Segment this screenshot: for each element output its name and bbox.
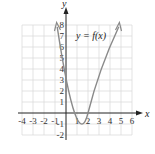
svg-text:7: 7 <box>60 31 65 41</box>
svg-text:5: 5 <box>119 116 124 126</box>
svg-text:-2: -2 <box>57 130 65 140</box>
svg-text:-3: -3 <box>29 116 37 126</box>
svg-text:3: 3 <box>97 116 102 126</box>
svg-text:-2: -2 <box>40 116 48 126</box>
svg-text:-4: -4 <box>18 116 26 126</box>
x-axis-label: x <box>144 108 150 119</box>
svg-text:2: 2 <box>60 86 65 96</box>
function-graph: x y -4 -3 -2 -1 1 2 3 4 5 6 -2 -1 1 2 3 … <box>0 0 155 154</box>
function-label: y = f(x) <box>75 30 107 42</box>
svg-text:6: 6 <box>130 116 135 126</box>
svg-text:-1: -1 <box>57 119 65 129</box>
x-axis-arrow-icon <box>136 111 143 116</box>
svg-text:1: 1 <box>60 97 65 107</box>
y-axis-label: y <box>61 0 67 9</box>
svg-text:4: 4 <box>108 116 113 126</box>
svg-text:3: 3 <box>60 75 65 85</box>
